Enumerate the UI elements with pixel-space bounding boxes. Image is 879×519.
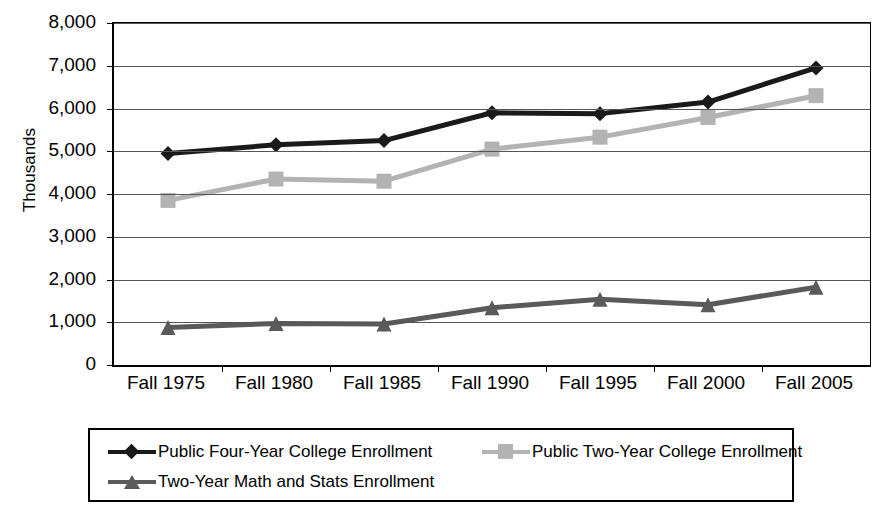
y-tick-label: 6,000 bbox=[18, 98, 96, 117]
x-tick-mark bbox=[330, 365, 331, 372]
x-tick-label: Fall 1975 bbox=[127, 372, 205, 394]
legend-item[interactable]: Public Four-Year College Enrollment bbox=[108, 442, 432, 462]
data-point-marker bbox=[161, 193, 176, 208]
y-tick-mark bbox=[107, 151, 114, 152]
data-point-marker bbox=[701, 110, 716, 125]
data-point-marker bbox=[377, 174, 392, 189]
series-group bbox=[161, 280, 824, 335]
chart-legend: Public Four-Year College EnrollmentPubli… bbox=[88, 428, 794, 502]
y-tick-label: 0 bbox=[18, 354, 96, 373]
x-tick-label: Fall 1985 bbox=[343, 372, 421, 394]
gridline bbox=[114, 151, 870, 152]
x-tick-mark bbox=[438, 365, 439, 372]
x-tick-label: Fall 1995 bbox=[559, 372, 637, 394]
y-tick-label: 1,000 bbox=[18, 311, 96, 330]
y-tick-mark bbox=[107, 365, 114, 366]
x-tick-label: Fall 2000 bbox=[667, 372, 745, 394]
legend-label: Public Two-Year College Enrollment bbox=[532, 442, 802, 462]
x-tick-label: Fall 2005 bbox=[775, 372, 853, 394]
y-tick-mark bbox=[107, 237, 114, 238]
data-point-marker bbox=[485, 142, 500, 157]
x-tick-mark bbox=[654, 365, 655, 372]
data-point-marker bbox=[809, 60, 824, 75]
data-point-marker bbox=[269, 172, 284, 187]
y-tick-mark bbox=[107, 109, 114, 110]
y-tick-mark bbox=[107, 194, 114, 195]
legend-item[interactable]: Two-Year Math and Stats Enrollment bbox=[108, 472, 434, 492]
x-tick-mark bbox=[762, 365, 763, 372]
gridline bbox=[114, 23, 870, 24]
data-point-marker bbox=[593, 130, 608, 145]
y-axis-tick-labels: 8,0007,0006,0005,0004,0003,0002,0001,000… bbox=[18, 0, 96, 380]
legend-swatch bbox=[108, 443, 156, 461]
y-tick-label: 4,000 bbox=[18, 183, 96, 202]
chart-container: Thousands 8,0007,0006,0005,0004,0003,000… bbox=[0, 0, 879, 519]
data-point-marker bbox=[377, 133, 392, 148]
legend-swatch bbox=[108, 473, 156, 491]
gridline bbox=[114, 66, 870, 67]
x-tick-label: Fall 1990 bbox=[451, 372, 529, 394]
y-tick-label: 7,000 bbox=[18, 55, 96, 74]
x-tick-mark bbox=[222, 365, 223, 372]
gridline bbox=[114, 280, 870, 281]
square-marker-icon bbox=[498, 444, 513, 459]
y-tick-mark bbox=[107, 322, 114, 323]
legend-item[interactable]: Public Two-Year College Enrollment bbox=[482, 442, 802, 462]
gridline bbox=[114, 109, 870, 110]
y-tick-label: 3,000 bbox=[18, 226, 96, 245]
y-tick-mark bbox=[107, 66, 114, 67]
data-point-marker bbox=[161, 146, 176, 161]
data-point-marker bbox=[809, 88, 824, 103]
x-tick-mark bbox=[546, 365, 547, 372]
y-tick-mark bbox=[107, 23, 114, 24]
plot-area bbox=[112, 22, 871, 367]
y-tick-mark bbox=[107, 280, 114, 281]
legend-label: Two-Year Math and Stats Enrollment bbox=[158, 472, 434, 492]
gridline bbox=[114, 194, 870, 195]
diamond-marker-icon bbox=[124, 444, 140, 460]
y-tick-label: 5,000 bbox=[18, 140, 96, 159]
gridline bbox=[114, 237, 870, 238]
x-tick-label: Fall 1980 bbox=[235, 372, 313, 394]
data-point-marker bbox=[269, 137, 284, 152]
gridline bbox=[114, 322, 870, 323]
legend-label: Public Four-Year College Enrollment bbox=[158, 442, 432, 462]
legend-swatch bbox=[482, 443, 530, 461]
data-point-marker bbox=[701, 95, 716, 110]
triangle-marker-icon bbox=[124, 475, 140, 489]
y-tick-label: 8,000 bbox=[18, 12, 96, 31]
y-tick-label: 2,000 bbox=[18, 269, 96, 288]
